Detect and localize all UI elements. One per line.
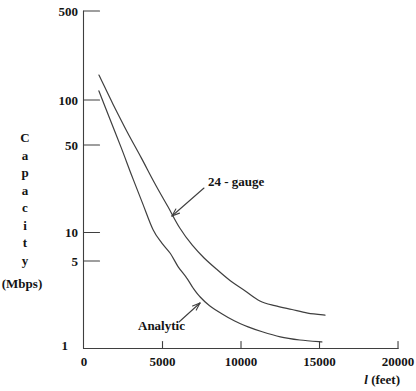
y-axis-title-letter-a: a [22, 183, 29, 198]
y-axis-title-letter-c: c [22, 200, 28, 215]
x-tick-label-5000: 5000 [150, 354, 176, 369]
annotation-label-analytic: Analytic [138, 318, 185, 333]
y-tick-label-1: 1 [62, 338, 69, 353]
curve-analytic [99, 91, 322, 342]
y-axis-title-letter-t: t [23, 235, 28, 250]
x-tick-label-20000: 20000 [382, 354, 415, 369]
y-axis-title-letter-p: p [21, 165, 28, 180]
x-tick-label-0: 0 [81, 354, 88, 369]
annotation-label-24-gauge: 24 - gauge [208, 174, 265, 189]
y-tick-label-50: 50 [65, 138, 78, 153]
y-tick-label-500: 500 [59, 4, 79, 19]
annotation-arrow-24-gauge [172, 188, 204, 216]
y-axis-title-letter-y: y [22, 253, 29, 268]
chart-canvas: 15105010050005000100001500020000Capacity… [0, 0, 416, 391]
y-axis-title-letter-c: C [20, 130, 29, 145]
y-axis-unit: (Mbps) [2, 276, 42, 291]
y-tick-label-5: 5 [72, 254, 79, 269]
y-axis-title-letter-a: a [22, 148, 29, 163]
x-tick-label-15000: 15000 [303, 354, 336, 369]
x-axis-title: l (feet) [364, 372, 400, 387]
figure-capacity-vs-loop-length: 15105010050005000100001500020000Capacity… [0, 0, 416, 391]
curve-24-gauge [99, 75, 325, 315]
y-tick-label-10: 10 [65, 225, 78, 240]
x-tick-label-10000: 10000 [225, 354, 258, 369]
y-axis-title-letter-i: i [23, 218, 27, 233]
y-tick-label-100: 100 [59, 93, 79, 108]
annotation-arrow-analytic [179, 303, 200, 322]
